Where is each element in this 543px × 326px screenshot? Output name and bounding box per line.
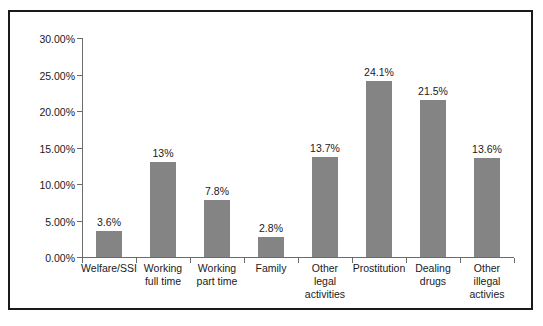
y-axis-tick-label: 30.00%	[15, 34, 75, 45]
y-axis-tick-label: 5.00%	[15, 217, 75, 228]
category-label: Other legal activities	[295, 262, 355, 300]
bar-value-label: 24.1%	[349, 67, 409, 78]
bar	[258, 237, 284, 257]
y-axis-tick	[77, 111, 82, 112]
y-axis-tick-label: 15.00%	[15, 144, 75, 155]
bar-value-label: 2.8%	[241, 223, 301, 234]
y-axis-tick	[77, 148, 82, 149]
plot-area: 0.00%5.00%10.00%15.00%20.00%25.00%30.00%…	[10, 12, 531, 308]
bar	[96, 231, 122, 257]
category-label: Dealing drugs	[403, 262, 463, 288]
y-axis-tick-label: 0.00%	[15, 253, 75, 264]
bar-value-label: 3.6%	[79, 217, 139, 228]
bar-value-label: 13.7%	[295, 143, 355, 154]
bar	[420, 100, 446, 257]
bar	[474, 158, 500, 257]
chart-figure: 0.00%5.00%10.00%15.00%20.00%25.00%30.00%…	[8, 10, 533, 310]
bar	[366, 81, 392, 257]
bar-value-label: 21.5%	[403, 86, 463, 97]
y-axis-tick	[77, 184, 82, 185]
category-label: Working full time	[133, 262, 193, 288]
bar	[150, 162, 176, 257]
bar	[312, 157, 338, 257]
y-axis-tick-label: 25.00%	[15, 71, 75, 82]
category-label: Family	[241, 262, 301, 275]
y-axis-tick	[77, 75, 82, 76]
category-label: Other illegal activies	[457, 262, 517, 300]
y-axis-tick-label: 10.00%	[15, 180, 75, 191]
bar-value-label: 13%	[133, 148, 193, 159]
category-label: Prostitution	[349, 262, 409, 275]
y-axis-tick-label: 20.00%	[15, 107, 75, 118]
bar-value-label: 7.8%	[187, 186, 247, 197]
category-label: Welfare/SSI	[79, 262, 139, 275]
category-label: Working part time	[187, 262, 247, 288]
y-axis-tick	[77, 38, 82, 39]
bar-value-label: 13.6%	[457, 144, 517, 155]
bar	[204, 200, 230, 257]
